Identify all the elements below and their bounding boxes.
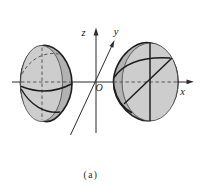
figure-caption: (a) — [83, 170, 98, 181]
y-axis-line — [71, 45, 113, 136]
x-axis-label: x — [179, 86, 185, 97]
x-axis-arrow-icon — [187, 79, 194, 84]
left-hemisphere-face — [21, 46, 63, 122]
right-hemisphere — [114, 43, 179, 121]
origin-label: O — [95, 82, 102, 93]
geometry-diagram: z y x O (a) — [0, 0, 215, 187]
y-axis-label: y — [113, 26, 119, 37]
figure-canvas: z y x O (a) — [0, 0, 215, 187]
z-axis-label: z — [80, 27, 85, 38]
y-axis-arrow-icon — [110, 40, 115, 48]
left-hemisphere — [21, 45, 73, 121]
z-axis-arrow-icon — [94, 28, 99, 36]
